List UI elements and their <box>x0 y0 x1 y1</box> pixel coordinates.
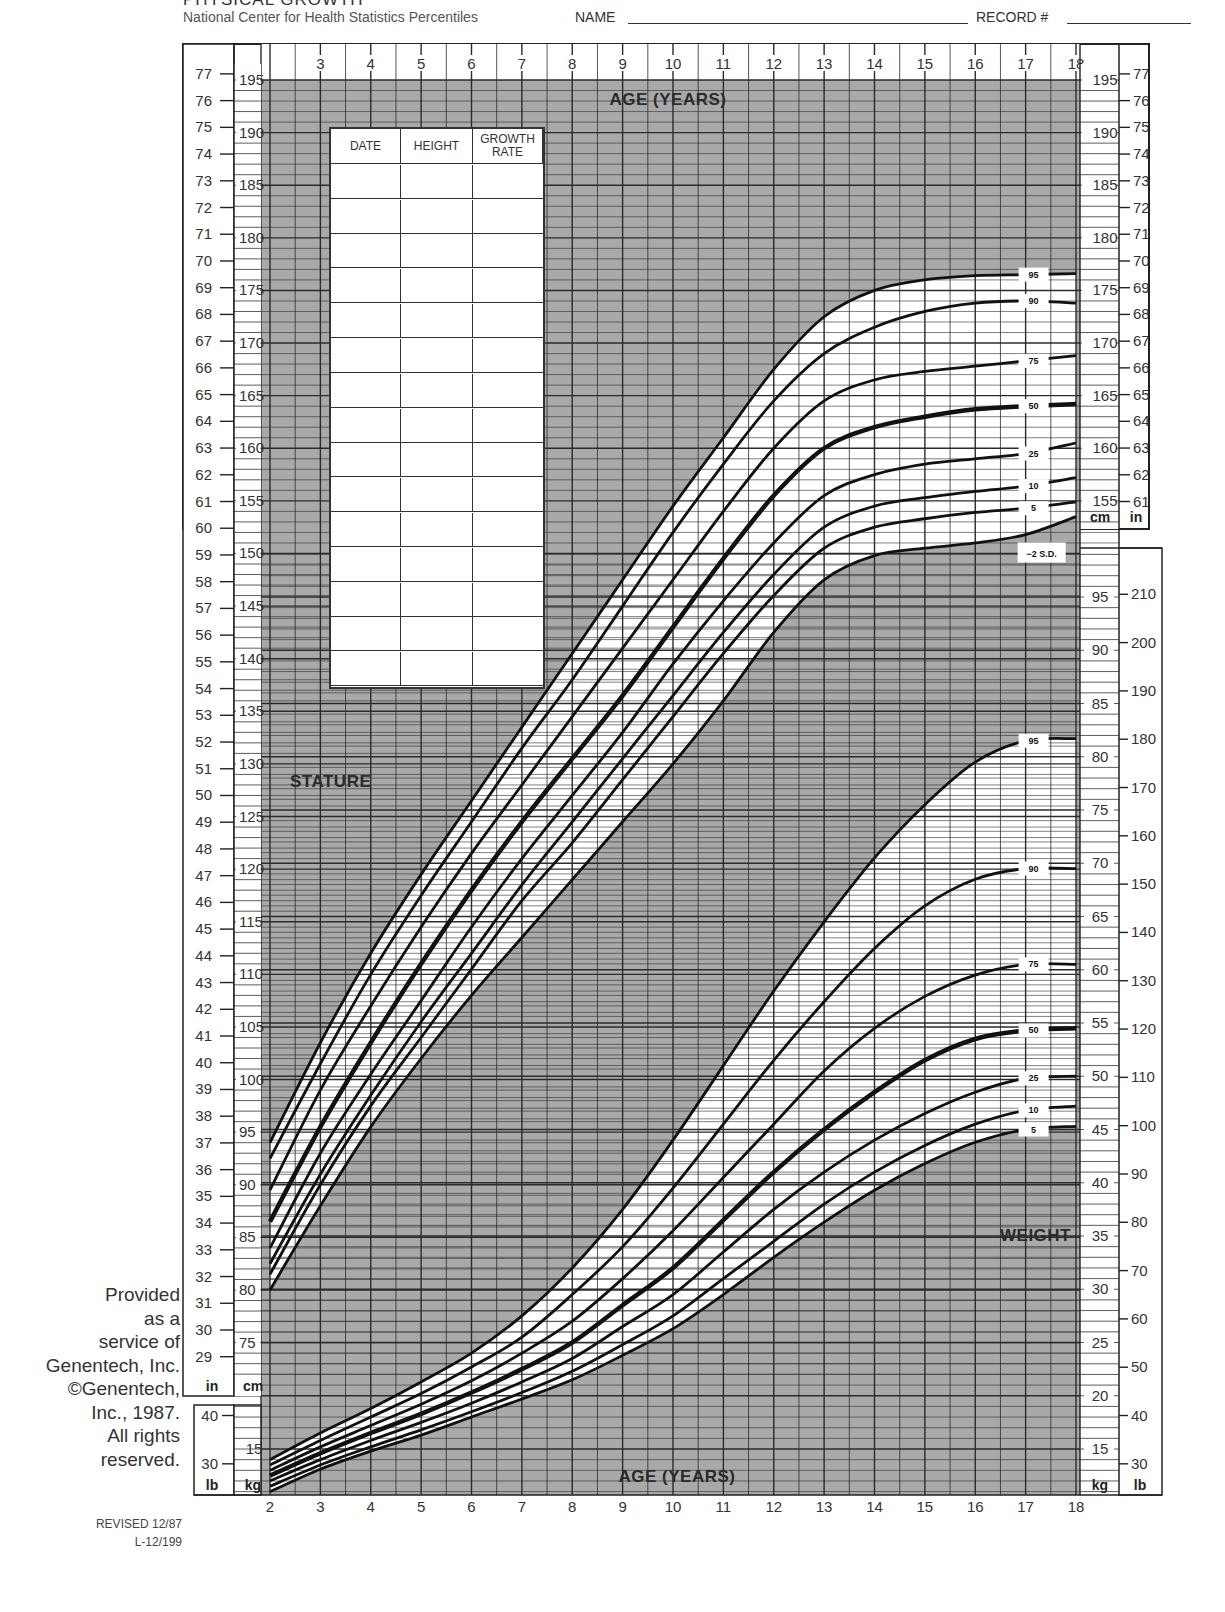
height-cell[interactable] <box>401 200 473 234</box>
date-cell[interactable] <box>331 234 401 268</box>
kg-tick-right: 90 <box>1092 641 1109 658</box>
stature-percentile-label: 5 <box>1031 503 1036 513</box>
date-cell[interactable] <box>331 269 401 303</box>
weight-percentile-label: 5 <box>1031 1125 1036 1135</box>
stature-percentile-label: 50 <box>1029 401 1039 411</box>
inch-tick-left: 35 <box>195 1187 212 1204</box>
height-cell[interactable] <box>401 374 473 408</box>
age-tick-top: 4 <box>367 55 375 72</box>
height-cell[interactable] <box>401 339 473 373</box>
cm-tick-left: 155 <box>239 492 264 509</box>
kg-tick-right: 25 <box>1092 1334 1109 1351</box>
kg-tick-right: 20 <box>1092 1387 1109 1404</box>
growth-rate-cell[interactable] <box>473 513 543 547</box>
growth-rate-cell[interactable] <box>473 200 543 234</box>
date-cell[interactable] <box>331 409 401 443</box>
cm-tick-left: 175 <box>239 281 264 298</box>
date-cell[interactable] <box>331 304 401 338</box>
height-cell[interactable] <box>401 409 473 443</box>
cm-tick-left: 85 <box>239 1228 256 1245</box>
growth-rate-cell[interactable] <box>473 269 543 303</box>
growth-rate-cell[interactable] <box>473 165 543 199</box>
growth-rate-cell[interactable] <box>473 304 543 338</box>
inch-tick-right: 75 <box>1133 118 1150 135</box>
date-cell[interactable] <box>331 443 401 477</box>
lb-tick-right: 180 <box>1131 730 1156 747</box>
inch-tick-left: 40 <box>195 1054 212 1071</box>
growth-record-table: DATE HEIGHT GROWTH RATE <box>329 127 545 689</box>
date-cell[interactable] <box>331 583 401 617</box>
kg-tick-right: 95 <box>1092 588 1109 605</box>
age-tick-top: 9 <box>618 55 626 72</box>
inch-tick-left: 42 <box>195 1000 212 1017</box>
cm-tick-left: 125 <box>239 808 264 825</box>
date-cell[interactable] <box>331 374 401 408</box>
height-cell[interactable] <box>401 652 473 686</box>
inch-tick-right: 77 <box>1133 65 1150 82</box>
date-cell[interactable] <box>331 478 401 512</box>
kg-tick-right: 45 <box>1092 1121 1109 1138</box>
growth-rate-cell[interactable] <box>473 409 543 443</box>
height-cell[interactable] <box>401 513 473 547</box>
stature-percentile-label: 75 <box>1029 356 1039 366</box>
inch-tick-left: 66 <box>195 359 212 376</box>
cm-tick-left: 150 <box>239 544 264 561</box>
inch-tick-right: 68 <box>1133 305 1150 322</box>
inch-tick-left: 52 <box>195 733 212 750</box>
inch-tick-left: 75 <box>195 118 212 135</box>
growth-rate-cell[interactable] <box>473 652 543 686</box>
growth-rate-cell[interactable] <box>473 374 543 408</box>
growth-rate-cell[interactable] <box>473 339 543 373</box>
lb-tick-right: 70 <box>1131 1262 1148 1279</box>
date-cell[interactable] <box>331 339 401 373</box>
growth-rate-cell[interactable] <box>473 234 543 268</box>
date-cell[interactable] <box>331 165 401 199</box>
height-cell[interactable] <box>401 269 473 303</box>
lb-tick-right: 200 <box>1131 634 1156 651</box>
height-cell[interactable] <box>401 165 473 199</box>
height-cell[interactable] <box>401 304 473 338</box>
stature-percentile-label: 95 <box>1029 270 1039 280</box>
date-cell[interactable] <box>331 513 401 547</box>
lb-tick-right: 130 <box>1131 972 1156 989</box>
height-cell[interactable] <box>401 548 473 582</box>
date-cell[interactable] <box>331 652 401 686</box>
age-tick-top: 13 <box>816 55 833 72</box>
height-cell[interactable] <box>401 583 473 617</box>
date-cell[interactable] <box>331 200 401 234</box>
growth-rate-cell[interactable] <box>473 617 543 651</box>
kg-tick-right: 60 <box>1092 961 1109 978</box>
stature-label: STATURE <box>290 772 371 791</box>
inch-tick-right: 66 <box>1133 359 1150 376</box>
kg-tick-right: 55 <box>1092 1014 1109 1031</box>
height-cell[interactable] <box>401 478 473 512</box>
cm-tick-right: 160 <box>1092 439 1117 456</box>
height-cell[interactable] <box>401 234 473 268</box>
sd-label: −2 S.D. <box>1026 549 1056 559</box>
lb-tick-right: 60 <box>1131 1310 1148 1327</box>
growth-rate-cell[interactable] <box>473 548 543 582</box>
date-cell[interactable] <box>331 617 401 651</box>
inch-tick-left: 55 <box>195 653 212 670</box>
age-tick-bottom: 5 <box>417 1498 425 1515</box>
growth-rate-cell[interactable] <box>473 478 543 512</box>
cm-tick-left: 135 <box>239 702 264 719</box>
inch-tick-right: 71 <box>1133 225 1150 242</box>
age-tick-top: 5 <box>417 55 425 72</box>
inch-tick-left: 70 <box>195 252 212 269</box>
kg-tick-right: 70 <box>1092 854 1109 871</box>
lb-tick-right: 190 <box>1131 682 1156 699</box>
unit-in-right: in <box>1130 509 1142 525</box>
lb-tick-right: 30 <box>1131 1455 1148 1472</box>
date-cell[interactable] <box>331 548 401 582</box>
inch-tick-left: 39 <box>195 1080 212 1097</box>
inch-tick-left: 60 <box>195 519 212 536</box>
cm-tick-left: 160 <box>239 439 264 456</box>
height-cell[interactable] <box>401 443 473 477</box>
lb-tick-right: 110 <box>1131 1068 1155 1085</box>
growth-rate-cell[interactable] <box>473 443 543 477</box>
lb-tick-right: 210 <box>1131 585 1156 602</box>
height-cell[interactable] <box>401 617 473 651</box>
growth-rate-cell[interactable] <box>473 583 543 617</box>
cm-tick-right: 155 <box>1092 492 1117 509</box>
